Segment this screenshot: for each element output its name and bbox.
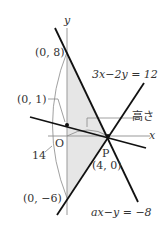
point-P-coords: (4, 0) — [92, 160, 122, 171]
y-axis-label: y — [64, 15, 70, 26]
equation-3x-2y-12: 3x−2y = 12 — [92, 69, 158, 80]
height-label: 高さ — [132, 111, 154, 122]
point-label-0-1: (0, 1) — [17, 94, 47, 105]
point-0-1 — [65, 123, 69, 127]
length-label-14: 14 — [32, 150, 46, 161]
leader-14 — [45, 146, 52, 152]
leader-0-1 — [48, 99, 65, 122]
point-label-0-8: (0, 8) — [35, 47, 65, 58]
point-label-0-neg6: (0, −6) — [23, 193, 62, 204]
point-P-label: P — [102, 148, 109, 159]
point-P — [106, 134, 110, 138]
origin-label: O — [55, 138, 64, 149]
equation-ax-y-neg8: ax−y = −8 — [91, 207, 152, 218]
x-axis-label: x — [149, 130, 155, 141]
